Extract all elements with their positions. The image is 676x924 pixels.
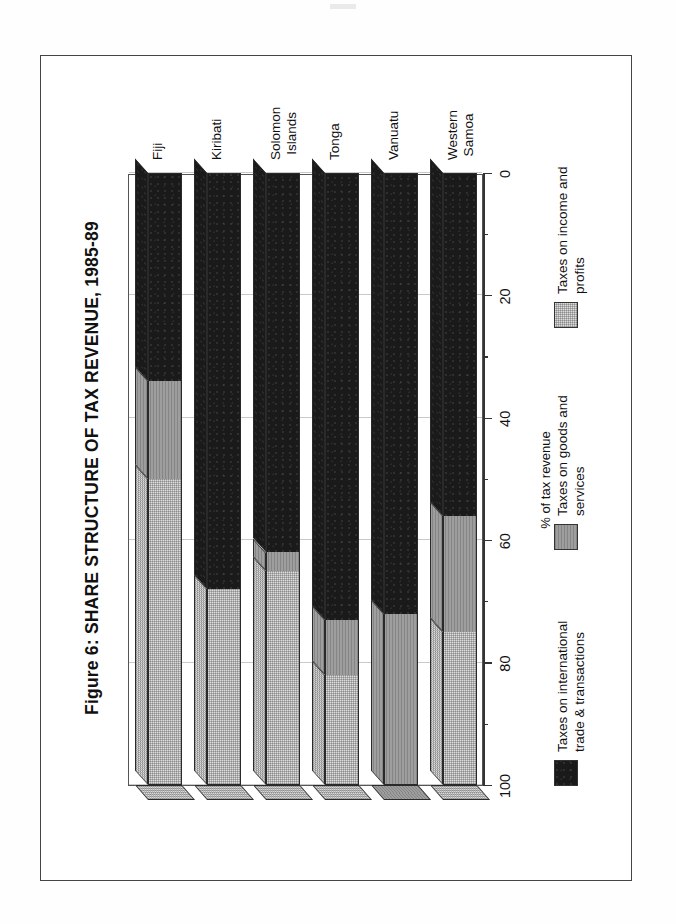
axis-minor-tick xyxy=(483,724,488,725)
bar-end-cap xyxy=(135,785,195,800)
bar-segment-top xyxy=(194,575,207,785)
bar-segment xyxy=(384,173,418,614)
axis-tick xyxy=(483,785,492,786)
bar-end-cap xyxy=(371,785,431,800)
axis-tick xyxy=(483,418,492,419)
bar-segment-top xyxy=(430,501,443,632)
legend-item-3: Taxes on income and profits xyxy=(554,166,588,328)
bar-end-cap xyxy=(430,785,490,800)
axis-tick-label: 0 xyxy=(497,170,513,178)
scan-artifact xyxy=(330,4,356,9)
category-label-2: Kiribati xyxy=(209,119,225,160)
axis-minor-tick xyxy=(483,601,488,602)
legend-item-2: Taxes on goods and services xyxy=(554,395,588,550)
legend-label: Taxes on income and profits xyxy=(554,166,588,294)
axis-tick-label: 40 xyxy=(497,411,513,427)
bar-segment-top xyxy=(253,159,266,553)
legend-swatch xyxy=(554,760,578,786)
axis-tick xyxy=(483,540,492,541)
bar-segment xyxy=(443,173,477,516)
bar-segment xyxy=(266,173,300,552)
bar-segment-top xyxy=(135,367,148,479)
bar-segment xyxy=(148,479,182,785)
bar-segment xyxy=(207,589,241,785)
bar-segment-top xyxy=(312,660,325,785)
bar-3 xyxy=(266,175,300,785)
bar-end-cap xyxy=(253,785,313,800)
bar-segment xyxy=(266,552,300,570)
bar-segment-top xyxy=(135,465,148,785)
rotated-chart-canvas: Figure 6: SHARE STRUCTURE OF TAX REVENUE… xyxy=(76,88,596,848)
bar-segment-top xyxy=(371,599,384,785)
figure-border: Figure 6: SHARE STRUCTURE OF TAX REVENUE… xyxy=(40,55,632,881)
plot-frame xyxy=(128,174,483,786)
scanned-page: Figure 6: SHARE STRUCTURE OF TAX REVENUE… xyxy=(0,0,676,924)
bar-segment xyxy=(443,632,477,785)
bar-segment-top xyxy=(135,159,148,382)
bar-segment xyxy=(325,675,359,785)
bar-2 xyxy=(207,175,241,785)
value-axis-title: % of tax revenue xyxy=(538,174,553,786)
chart-title: Figure 6: SHARE STRUCTURE OF TAX REVENUE… xyxy=(82,88,103,848)
category-label-5: Vanuatu xyxy=(386,111,402,160)
bar-segment xyxy=(443,516,477,632)
category-label-3: Solomon Islands xyxy=(268,107,300,160)
bar-segment xyxy=(384,614,418,785)
bar-end-cap xyxy=(194,785,254,800)
bar-segment xyxy=(325,173,359,620)
bar-segment xyxy=(207,173,241,589)
axis-tick-label: 60 xyxy=(497,533,513,549)
bar-1 xyxy=(148,175,182,785)
plot-area xyxy=(129,175,482,785)
bar-6 xyxy=(443,175,477,785)
bar-segment-top xyxy=(253,556,266,785)
axis-tick xyxy=(483,662,492,663)
bar-segment xyxy=(266,571,300,785)
axis-tick xyxy=(483,295,492,296)
legend-swatch xyxy=(554,302,578,328)
bar-segment-top xyxy=(194,159,207,590)
axis-tick-label: 80 xyxy=(497,656,513,672)
category-label-4: Tonga xyxy=(327,123,343,160)
axis-minor-tick xyxy=(483,234,488,235)
value-axis-line xyxy=(483,174,485,786)
category-label-6: Western Samoa xyxy=(445,110,477,160)
bar-segment-top xyxy=(430,618,443,785)
bar-segment-top xyxy=(371,159,384,614)
axis-tick xyxy=(483,173,492,174)
axis-minor-tick xyxy=(483,356,488,357)
bar-end-cap xyxy=(312,785,372,800)
bar-4 xyxy=(325,175,359,785)
bar-segment xyxy=(148,381,182,479)
legend-label: Taxes on international trade & transacti… xyxy=(554,621,588,752)
chart-legend: Taxes on international trade & transacti… xyxy=(554,86,600,786)
axis-minor-tick xyxy=(483,479,488,480)
axis-tick-label: 20 xyxy=(497,288,513,304)
bar-segment xyxy=(148,173,182,381)
bar-segment-top xyxy=(430,159,443,516)
category-label-1: Fiji xyxy=(150,143,166,160)
legend-label: Taxes on goods and services xyxy=(554,395,588,516)
legend-item-1: Taxes on international trade & transacti… xyxy=(554,621,588,786)
legend-swatch xyxy=(554,524,578,550)
bar-5 xyxy=(384,175,418,785)
axis-tick-label: 100 xyxy=(497,774,513,798)
bar-segment-top xyxy=(312,159,325,620)
bar-segment xyxy=(325,620,359,675)
